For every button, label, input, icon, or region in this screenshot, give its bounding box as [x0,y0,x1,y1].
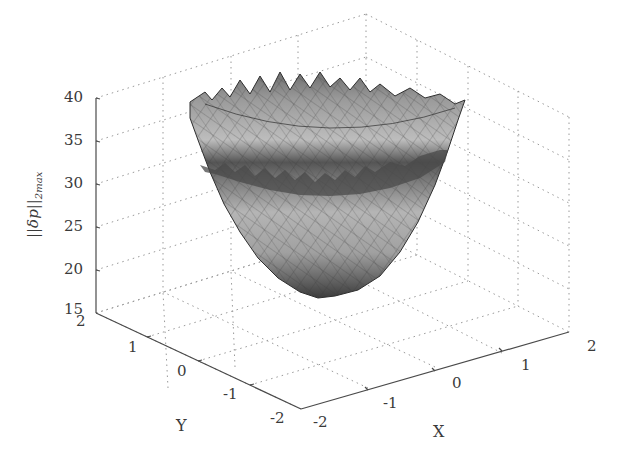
y-axis-title: Y [176,418,187,434]
x-axis-title: X [433,424,444,440]
z-tick-label: 30 [64,176,83,191]
y-tick-label: -1 [223,387,238,402]
plot-canvas [0,0,627,467]
y-tick-label: 2 [76,314,86,329]
x-tick-label: -1 [383,396,398,411]
surface-plot: 40 35 30 25 20 15 2 1 0 -1 -2 -2 -1 0 1 … [0,0,627,467]
z-tick-label: 40 [64,90,83,105]
y-tick-label: -2 [270,411,285,426]
x-tick-label: -2 [313,415,328,430]
z-tick-label: 25 [64,219,83,234]
z-axis-title-main: ||δp|| [24,199,42,238]
z-axis-title-subscript: 2max [33,172,44,199]
x-tick-label: 2 [587,339,597,354]
x-tick-label: 0 [452,376,462,391]
x-tick-label: 1 [521,358,531,373]
y-tick-label: 0 [177,364,187,379]
surface-mesh [190,72,465,298]
z-axis-title: ||δp||2max [24,172,44,238]
z-tick-label: 35 [64,133,83,148]
z-tick-label: 20 [64,262,83,277]
y-tick-label: 1 [128,340,138,355]
